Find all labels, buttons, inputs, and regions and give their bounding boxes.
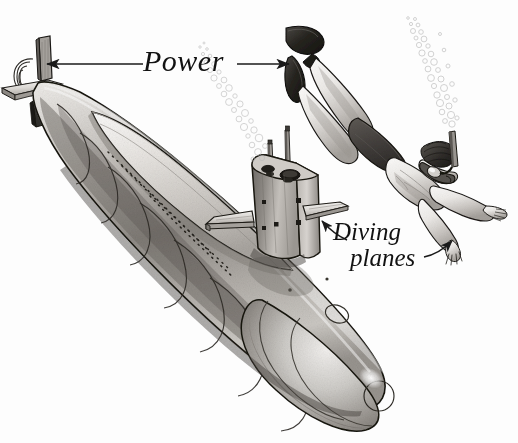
- diving-planes-label-line2: planes: [350, 245, 415, 270]
- illustration-canvas: Power Diving planes: [0, 0, 518, 443]
- power-label: Power: [143, 46, 224, 76]
- diving-planes-label-line1: Diving: [333, 218, 401, 245]
- diving-planes-label: Diving planes: [333, 219, 415, 270]
- submarine-diver-illustration: [0, 0, 518, 443]
- diver-bubble-trail: [407, 17, 459, 128]
